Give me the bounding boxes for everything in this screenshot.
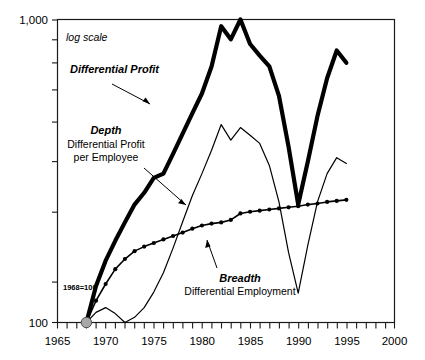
series-breadth-point <box>229 218 233 222</box>
series-breadth-point <box>248 210 252 214</box>
origin-marker-1968 <box>81 317 91 327</box>
series-breadth-point <box>113 267 117 271</box>
series-breadth-point <box>258 209 262 213</box>
series-breadth-point <box>286 205 290 209</box>
series-breadth-point <box>238 211 242 215</box>
y-axis-ticks <box>52 20 58 323</box>
annotation-breadth-sub: Differential Employment <box>184 285 295 297</box>
y-tick-label-1000: 1,000 <box>19 14 48 26</box>
series-breadth-point <box>190 227 194 231</box>
y-tick-label-100: 100 <box>29 317 48 329</box>
series-breadth-point <box>181 231 185 235</box>
series-breadth-point <box>267 207 271 211</box>
series-breadth-point <box>209 222 213 226</box>
x-tick-label-1995: 1995 <box>334 335 360 347</box>
x-tick-label-1975: 1975 <box>141 335 167 347</box>
series-breadth-point <box>161 237 165 241</box>
annotation-breadth-label: Breadth <box>219 272 261 284</box>
annotation-differential-profit: Differential Profit <box>70 63 160 104</box>
series-breadth-point <box>142 245 146 249</box>
series-breadth-point <box>123 257 127 261</box>
leader-arrow-differential-profit <box>143 98 150 104</box>
series-breadth-point <box>152 241 156 245</box>
log-scale-note: log scale <box>66 31 108 43</box>
x-tick-label-1965: 1965 <box>45 335 71 347</box>
series-breadth-point <box>104 282 108 286</box>
annotation-depth-sub-line2: per Employee <box>74 151 139 163</box>
series-breadth-point <box>200 223 204 227</box>
leader-arrow-depth <box>178 199 186 205</box>
x-axis-ticks <box>58 323 395 329</box>
annotation-depth-label: Depth <box>90 124 121 136</box>
annotation-depth-sub-line1: Differential Profit <box>67 138 145 150</box>
x-tick-label-1990: 1990 <box>286 335 312 347</box>
x-tick-label-1970: 1970 <box>93 335 119 347</box>
x-tick-label-2000: 2000 <box>382 335 408 347</box>
series-breadth-point <box>344 198 348 202</box>
annotation-breadth: Breadth Differential Employment <box>184 240 295 297</box>
series-breadth-point <box>306 202 310 206</box>
line-chart: 1,000 100 1965 1970 1975 1980 1985 1990 … <box>0 0 425 360</box>
series-breadth-point <box>171 234 175 238</box>
chart-container: 1,000 100 1965 1970 1975 1980 1985 1990 … <box>0 0 425 360</box>
base-index-note: 1968=100 <box>63 283 97 292</box>
x-tick-label-1980: 1980 <box>189 335 215 347</box>
series-breadth-point <box>335 199 339 203</box>
series-breadth-point <box>132 249 136 253</box>
series-breadth-point <box>219 220 223 224</box>
annotation-differential-profit-label: Differential Profit <box>70 63 160 75</box>
series-breadth-point <box>325 200 329 204</box>
x-tick-label-1985: 1985 <box>238 335 264 347</box>
